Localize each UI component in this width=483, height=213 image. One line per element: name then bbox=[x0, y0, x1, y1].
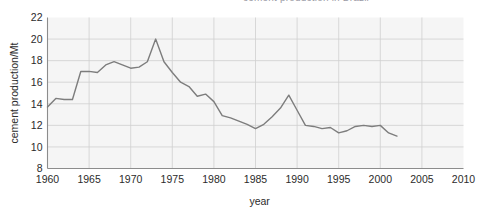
x-tick-label: 2010 bbox=[452, 173, 476, 185]
x-tick-label: 1990 bbox=[285, 173, 309, 185]
x-tick-label: 1965 bbox=[77, 173, 101, 185]
y-tick-label: 22 bbox=[31, 11, 43, 23]
x-tick-label: 1995 bbox=[327, 173, 351, 185]
chart-figure: cement production in Brazil 810121416182… bbox=[0, 0, 483, 213]
y-tick-label: 20 bbox=[31, 33, 43, 45]
line-chart: 810121416182022 196019651970197519801985… bbox=[0, 0, 483, 213]
clipped-top-caption: cement production in Brazil bbox=[243, 0, 483, 4]
x-tick-label: 1960 bbox=[36, 173, 60, 185]
y-tick-label: 14 bbox=[31, 98, 43, 110]
y-tick-label: 18 bbox=[31, 54, 43, 66]
y-tick-label: 10 bbox=[31, 141, 43, 153]
y-tick-label: 16 bbox=[31, 76, 43, 88]
y-axis-tick-labels: 810121416182022 bbox=[31, 11, 43, 174]
x-tick-label: 2000 bbox=[369, 173, 393, 185]
y-axis-title: cement production/Mt bbox=[8, 42, 20, 143]
x-tick-label: 1980 bbox=[202, 173, 226, 185]
x-tick-label: 2005 bbox=[410, 173, 434, 185]
y-tick-label: 12 bbox=[31, 119, 43, 131]
x-axis-tick-labels: 1960196519701975198019851990199520002005… bbox=[36, 173, 476, 185]
x-tick-label: 1985 bbox=[244, 173, 268, 185]
x-tick-label: 1970 bbox=[119, 173, 143, 185]
x-axis-title: year bbox=[249, 195, 270, 207]
x-tick-label: 1975 bbox=[161, 173, 185, 185]
